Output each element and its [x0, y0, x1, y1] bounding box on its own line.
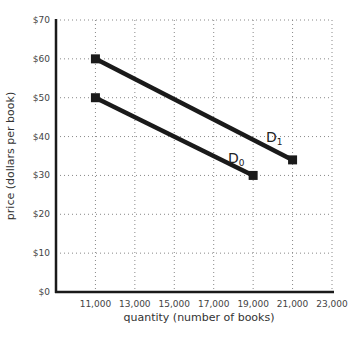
y-tick-label: $60 [33, 54, 50, 64]
data-point-marker [91, 54, 100, 63]
series-layer [91, 54, 297, 180]
x-tick-label: 19,000 [237, 299, 269, 309]
data-point-marker [91, 93, 100, 102]
y-tick-label: $20 [33, 209, 50, 219]
curve-label-d1: D1 [266, 129, 283, 147]
x-tick-labels: 11,00013,00015,00017,00019,00021,00023,0… [80, 299, 348, 309]
x-tick-label: 15,000 [159, 299, 191, 309]
demand-chart: $0$10$20$30$40$50$60$70 11,00013,00015,0… [0, 0, 363, 338]
x-tick-label: 23,000 [316, 299, 348, 309]
x-tick-label: 11,000 [80, 299, 112, 309]
y-tick-label: $70 [33, 15, 50, 25]
data-point-marker [249, 171, 258, 180]
y-axis-title: price (dollars per book) [4, 92, 17, 220]
y-tick-label: $30 [33, 170, 50, 180]
x-tick-label: 17,000 [198, 299, 230, 309]
y-tick-label: $50 [33, 93, 50, 103]
y-tick-label: $40 [33, 132, 50, 142]
x-tick-label: 21,000 [277, 299, 309, 309]
y-tick-label: $0 [39, 287, 51, 297]
y-tick-labels: $0$10$20$30$40$50$60$70 [33, 15, 50, 297]
x-axis-title: quantity (number of books) [123, 311, 274, 324]
y-tick-label: $10 [33, 248, 50, 258]
x-tick-label: 13,000 [119, 299, 151, 309]
curve-label-d0: D0 [228, 150, 245, 168]
data-point-marker [288, 155, 297, 164]
